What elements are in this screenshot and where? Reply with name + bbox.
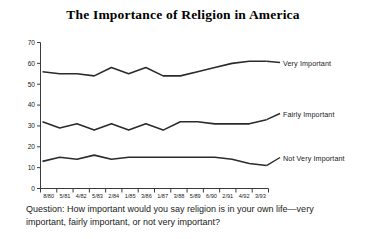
x-tick-label: 8/80 bbox=[43, 193, 54, 199]
x-tick-label: 3/86 bbox=[141, 193, 152, 199]
x-axis: 8/805/814/825/832/841/853/861/873/885/89… bbox=[41, 189, 269, 200]
y-tick-label: 20 bbox=[28, 143, 36, 150]
y-tick-label: 40 bbox=[28, 101, 36, 108]
chart-page: The Importance of Religion in America 01… bbox=[0, 0, 366, 239]
y-tick-label: 10 bbox=[28, 164, 36, 171]
x-tick-label: 1/87 bbox=[157, 193, 168, 199]
series-line-very-important bbox=[43, 61, 267, 76]
y-tick-label: 30 bbox=[28, 122, 36, 129]
leader-line-not-very-important bbox=[267, 158, 281, 166]
chart-caption: Question: How important would you say re… bbox=[26, 203, 316, 228]
data-series-group bbox=[43, 61, 267, 165]
series-label-not-very-important: Not Very Important bbox=[283, 154, 345, 163]
y-tick-label: 0 bbox=[31, 185, 35, 192]
x-tick-label: 2/91 bbox=[222, 193, 233, 199]
x-tick-label: 3/88 bbox=[173, 193, 184, 199]
x-tick-label: 1/85 bbox=[125, 193, 136, 199]
y-axis: 010203040506070 bbox=[28, 39, 41, 192]
leader-line-very-important bbox=[267, 61, 281, 62]
series-line-not-very-important bbox=[43, 155, 267, 165]
series-leader-lines bbox=[267, 61, 281, 165]
leader-line-fairly-important bbox=[267, 114, 281, 120]
x-tick-label: 4/92 bbox=[239, 193, 250, 199]
x-tick-label: 5/81 bbox=[59, 193, 70, 199]
x-tick-label: 5/89 bbox=[190, 193, 201, 199]
y-tick-label: 50 bbox=[28, 81, 36, 88]
plot-area: 010203040506070 8/805/814/825/832/841/85… bbox=[0, 0, 366, 200]
series-line-fairly-important bbox=[43, 120, 267, 130]
series-label-very-important: Very Important bbox=[283, 59, 331, 68]
x-tick-label: 2/84 bbox=[108, 193, 119, 199]
y-tick-label: 60 bbox=[28, 60, 36, 67]
x-tick-label: 4/82 bbox=[76, 193, 87, 199]
x-tick-label: 6/90 bbox=[206, 193, 217, 199]
line-chart-svg: 010203040506070 8/805/814/825/832/841/85… bbox=[0, 0, 366, 200]
y-tick-label: 70 bbox=[28, 39, 36, 46]
x-tick-label: 3/93 bbox=[255, 193, 266, 199]
x-tick-label: 5/83 bbox=[92, 193, 103, 199]
series-label-fairly-important: Fairly Important bbox=[283, 110, 335, 119]
